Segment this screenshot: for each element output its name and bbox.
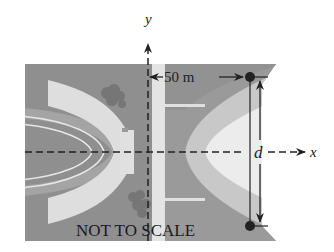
dimension-d-label: d — [254, 143, 263, 162]
dimension-50m-label: 50 m — [164, 69, 195, 85]
y-axis-label: y — [143, 11, 152, 27]
x-axis-label: x — [309, 144, 317, 160]
diagram-canvas: y x 50 m d NOT TO SCALE — [0, 0, 334, 252]
road-strip — [152, 64, 165, 244]
bottom-point — [245, 221, 255, 231]
right-field-stripe-top — [165, 104, 205, 107]
top-point — [245, 72, 255, 82]
right-field-stripe-bottom — [165, 198, 205, 201]
not-to-scale-caption: NOT TO SCALE — [76, 221, 195, 240]
building-notch — [122, 128, 128, 132]
